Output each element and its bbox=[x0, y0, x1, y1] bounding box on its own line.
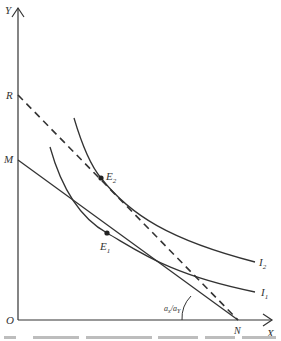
point-E2 bbox=[98, 175, 103, 180]
point-E1-label: E1 bbox=[99, 240, 110, 255]
budget-line bbox=[18, 160, 238, 320]
y-axis-label: Y bbox=[5, 4, 13, 16]
indifference-curve-I1 bbox=[50, 147, 255, 292]
point-E1 bbox=[104, 230, 109, 235]
point-R-label: R bbox=[5, 89, 13, 101]
figure-caption-clipped bbox=[0, 336, 281, 341]
indifference-diagram: Y X O R M N E1 E2 I2 I1 ax/aY bbox=[0, 0, 281, 341]
origin-label: O bbox=[6, 314, 14, 326]
dashed-price-line bbox=[18, 95, 238, 320]
point-E2-label: E2 bbox=[105, 170, 117, 185]
angle-arc bbox=[182, 296, 191, 320]
curve-I1-label: I1 bbox=[260, 286, 268, 301]
point-M-label: M bbox=[3, 153, 14, 165]
curve-I2-label: I2 bbox=[258, 256, 267, 271]
point-N-label: N bbox=[233, 325, 242, 336]
angle-label: ax/aY bbox=[164, 304, 181, 314]
